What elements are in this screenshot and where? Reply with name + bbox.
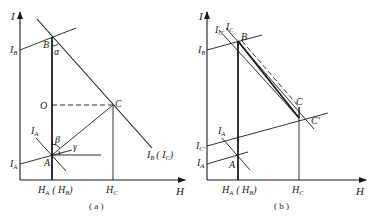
y-axis-label-b: I [198, 10, 204, 22]
panel-b: I H B C C′ A IB IC′ IA IA IC′ I [195, 10, 366, 211]
angle-label-alpha: α [54, 46, 60, 57]
line-IA-steep-a [36, 138, 66, 171]
label-IA-left-a: IA [9, 158, 17, 170]
point-label-Cprime-b: C′ [311, 115, 321, 126]
line-AC-a [52, 105, 113, 155]
label-IC-prime-top-b: IC′ [214, 24, 225, 36]
y-axis-label-a: I [10, 10, 16, 22]
label-ICprime-left-b: IC′ [195, 140, 206, 152]
diagram-canvas: I H B O C A α β γ IB IA I [0, 0, 375, 223]
point-label-C-b: C [296, 96, 303, 107]
tick-HA-HB-b: HA( HB) [221, 184, 257, 196]
caption-b: ( b ) [274, 201, 289, 211]
point-label-A-a: A [43, 157, 51, 168]
label-IA-upper-b: IA [217, 125, 225, 137]
x-axis-label-a: H [175, 185, 185, 197]
tick-HC-a: HC [105, 184, 118, 196]
tick-HA-HB-a: HA( HB) [37, 184, 73, 196]
point-label-O-a: O [40, 100, 47, 111]
point-label-B-a: B [43, 39, 49, 50]
point-label-A-b: A [228, 159, 236, 170]
label-IA-left-b: IA [196, 157, 204, 169]
line-IB-IC-a [37, 19, 152, 148]
line-IC-prime-b [219, 30, 299, 118]
x-axis-label-b: H [355, 185, 365, 197]
line-IA-b [207, 152, 248, 164]
line-IC-b [226, 28, 314, 129]
angle-label-gamma: γ [73, 141, 78, 152]
point-label-C-a: C [115, 98, 122, 109]
label-IB-left-a: IB [9, 44, 17, 56]
line-IA-steep-b [222, 138, 250, 170]
angle-label-beta: β [54, 134, 60, 145]
caption-a: ( a ) [89, 201, 104, 211]
tick-HC-b: HC [291, 184, 304, 196]
label-IB-IC-a: IB( IC) [146, 149, 174, 161]
point-label-B-b: B [241, 31, 247, 42]
dashed-line-BC-b [242, 41, 300, 108]
label-IA-upper-a: IA [30, 125, 38, 137]
label-IC-top-b: IC [225, 21, 234, 33]
label-IB-left-b: IB [197, 44, 205, 56]
panel-a: I H B O C A α β γ IB IA I [9, 10, 185, 211]
